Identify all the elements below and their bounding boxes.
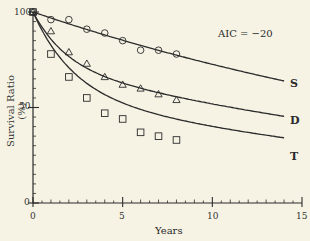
square-marker: [84, 95, 91, 102]
x-tick-10: 10: [207, 211, 218, 221]
x-tick-0: 0: [30, 211, 36, 221]
series-label-s: S: [290, 77, 298, 90]
x-axis-label: Years: [155, 225, 183, 236]
square-marker: [137, 129, 144, 136]
triangle-marker: [47, 28, 54, 34]
square-marker: [119, 116, 126, 123]
circle-marker: [66, 16, 73, 23]
y-tick-0: 0: [24, 197, 30, 207]
series-label-d: D: [290, 114, 300, 127]
series-label-t: T: [290, 150, 298, 163]
triangle-marker: [83, 60, 90, 66]
y-tick-100: 100: [14, 7, 31, 17]
x-tick-15: 15: [296, 211, 307, 221]
aic-annotation: AIC = −20: [218, 28, 273, 39]
square-marker: [66, 74, 73, 81]
square-marker: [155, 133, 162, 140]
square-marker: [48, 51, 55, 58]
y-axis-label: Survival Ratio (%): [5, 71, 27, 151]
square-marker: [101, 110, 108, 117]
x-tick-5: 5: [119, 211, 125, 221]
circle-marker: [137, 47, 144, 54]
square-marker: [173, 137, 180, 144]
